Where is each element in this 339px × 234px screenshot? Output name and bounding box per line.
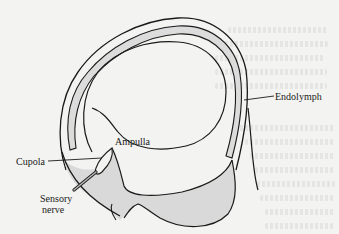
label-sensory-nerve-line2: nerve [42,204,65,215]
ampulla-region [62,148,235,227]
semicircular-canal-diagram: Endolymph Ampulla Cupola Sensory nerve [0,0,339,234]
label-endolymph: Endolymph [275,91,322,102]
label-cupola: Cupola [16,156,45,167]
canal-ring [60,18,258,190]
label-ampulla: Ampulla [115,136,151,147]
cupola-leader [48,158,102,161]
label-sensory-nerve-line1: Sensory [40,193,72,204]
endolymph-leader [244,96,274,100]
